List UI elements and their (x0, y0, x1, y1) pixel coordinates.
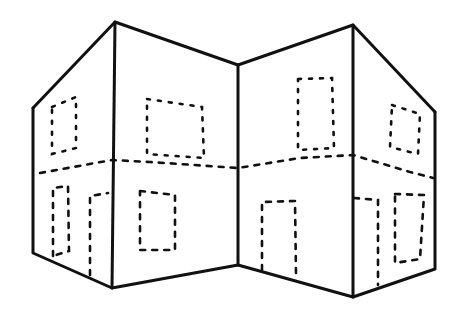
door-outline (53, 186, 69, 256)
building-edge (112, 22, 115, 288)
door-outline (140, 191, 175, 250)
window-outline (147, 99, 204, 158)
folded-building-diagram (0, 0, 463, 312)
window-outline (52, 97, 76, 154)
building-outline (33, 22, 435, 297)
door-outline (262, 201, 296, 274)
door-outline (90, 193, 108, 275)
window-outline (390, 105, 420, 154)
window-outline (298, 78, 334, 150)
door-outline (395, 194, 424, 263)
building-edge (33, 108, 435, 297)
windows (52, 78, 420, 158)
door-outline (354, 198, 378, 285)
building-edge (33, 22, 435, 112)
